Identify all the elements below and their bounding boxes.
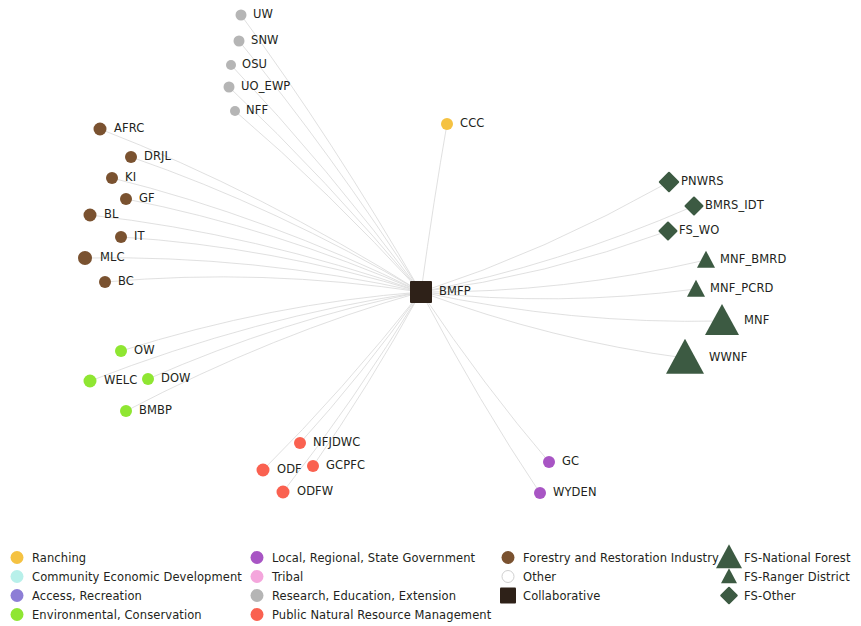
node-label-gc: GC: [562, 456, 579, 468]
node-label-afrc: AFRC: [114, 123, 144, 135]
edge-osu-to-hub: [231, 65, 421, 292]
edge-uo-ewp-to-hub: [229, 87, 421, 292]
tribal-legend-symbol: [251, 570, 264, 583]
edge-gf-to-hub: [126, 199, 421, 292]
environmental-node-symbol: [142, 373, 154, 385]
other-legend-symbol: [502, 570, 515, 583]
node-label-mnf-pcrd: MNF_PCRD: [710, 283, 774, 295]
research-legend-symbol: [251, 589, 264, 602]
legend-label-fs-other: FS-Other: [744, 589, 796, 603]
public-node-symbol: [277, 486, 290, 499]
legend-label-forestry: Forestry and Restoration Industry: [523, 551, 719, 565]
legend-swatch-government: [246, 548, 268, 567]
node-label-drjl: DRJL: [144, 151, 171, 163]
fs-ranger-district-node-symbol: [697, 251, 715, 268]
node-label-bmfp: BMFP: [439, 286, 471, 298]
forestry-legend-symbol: [502, 551, 515, 564]
legend-label-environmental: Environmental, Conservation: [32, 608, 202, 622]
legend-swatch-access: [6, 586, 28, 605]
node-label-mnf: MNF: [744, 315, 769, 327]
government-node-symbol: [534, 487, 546, 499]
forestry-node-symbol: [120, 193, 132, 205]
node-label-wwnf: WWNF: [709, 352, 747, 364]
legend-label-ranching: Ranching: [32, 551, 86, 565]
legend-label-fs-national-forest: FS-National Forest: [744, 551, 851, 565]
node-label-bmbp: BMBP: [139, 405, 172, 417]
legend-label-access: Access, Recreation: [32, 589, 142, 603]
legend-swatch-fs-ranger-district: [718, 567, 740, 586]
legend-swatch-forestry: [497, 548, 519, 567]
legend: RanchingCommunity Economic DevelopmentAc…: [0, 548, 861, 626]
edge-welc-to-hub: [90, 292, 421, 381]
edge-pnwrs-to-hub: [421, 182, 669, 292]
legend-swatch-ced: [6, 567, 28, 586]
fs-national-forest-node-symbol: [666, 339, 704, 374]
node-label-nff: NFF: [246, 105, 268, 117]
edge-gc-to-hub: [421, 292, 549, 462]
government-node-symbol: [543, 456, 555, 468]
node-label-mlc: MLC: [100, 252, 125, 264]
edge-ow-to-hub: [121, 292, 421, 351]
node-label-dow: DOW: [161, 373, 191, 385]
legend-swatch-ranching: [6, 548, 28, 567]
network-graph-canvas: UWSNWOSUUO_EWPNFFCCCAFRCDRJLKIGFBLITMLCB…: [0, 0, 861, 626]
legend-swatch-research: [246, 586, 268, 605]
research-node-symbol: [226, 60, 236, 70]
legend-swatch-tribal: [246, 567, 268, 586]
legend-label-public: Public Natural Resource Management: [272, 608, 491, 622]
node-label-odf: ODF: [277, 464, 302, 476]
public-node-symbol: [307, 460, 319, 472]
node-label-uo-ewp: UO_EWP: [241, 81, 290, 93]
node-label-bc: BC: [118, 276, 134, 288]
forestry-node-symbol: [115, 231, 127, 243]
fs-national-forest-node-symbol: [705, 304, 739, 335]
node-label-bmrs-idt: BMRS_IDT: [705, 200, 764, 212]
ced-legend-symbol: [11, 570, 24, 583]
ranching-legend-symbol: [11, 551, 24, 564]
edge-layer: [0, 0, 861, 545]
forestry-node-symbol: [99, 276, 111, 288]
edge-it-to-hub: [121, 237, 421, 292]
public-node-symbol: [257, 464, 270, 477]
node-label-ki: KI: [125, 172, 136, 184]
environmental-node-symbol: [115, 345, 127, 357]
public-legend-symbol: [251, 608, 264, 621]
forestry-node-symbol: [106, 172, 118, 184]
research-node-symbol: [224, 82, 235, 93]
government-legend-symbol: [251, 551, 264, 564]
node-label-ccc: CCC: [460, 118, 484, 130]
public-node-symbol: [294, 437, 306, 449]
node-label-uw: UW: [253, 9, 273, 21]
legend-label-tribal: Tribal: [272, 570, 303, 584]
legend-label-research: Research, Education, Extension: [272, 589, 456, 603]
forestry-node-symbol: [94, 123, 107, 136]
forestry-node-symbol: [78, 251, 92, 265]
environmental-node-symbol: [120, 405, 132, 417]
edge-wyden-to-hub: [421, 292, 540, 493]
node-label-odfw: ODFW: [297, 486, 333, 498]
edge-mlc-to-hub: [85, 258, 421, 292]
edge-bl-to-hub: [90, 215, 421, 292]
legend-label-ced: Community Economic Development: [32, 570, 242, 584]
environmental-legend-symbol: [11, 608, 24, 621]
ranching-node-symbol: [441, 118, 453, 130]
legend-swatch-collaborative: [497, 586, 519, 605]
edge-uw-to-hub: [241, 15, 421, 292]
environmental-node-symbol: [84, 375, 97, 388]
fs-other-node-symbol: [684, 196, 704, 216]
node-label-snw: SNW: [251, 35, 279, 47]
edge-nff-to-hub: [235, 111, 421, 292]
research-node-symbol: [234, 36, 245, 47]
node-label-it: IT: [134, 231, 145, 243]
fs-other-node-symbol: [658, 221, 678, 241]
node-label-mnf-bmrd: MNF_BMRD: [720, 254, 786, 266]
node-label-ow: OW: [134, 345, 155, 357]
legend-label-government: Local, Regional, State Government: [272, 551, 475, 565]
node-label-osu: OSU: [242, 59, 267, 71]
node-label-bl: BL: [104, 209, 119, 221]
edge-bmrs-idt-to-hub: [421, 206, 694, 292]
node-label-pnwrs: PNWRS: [681, 176, 724, 188]
fs-national-forest-legend-symbol: [716, 544, 742, 568]
fs-ranger-district-node-symbol: [687, 280, 705, 297]
legend-swatch-other: [497, 567, 519, 586]
